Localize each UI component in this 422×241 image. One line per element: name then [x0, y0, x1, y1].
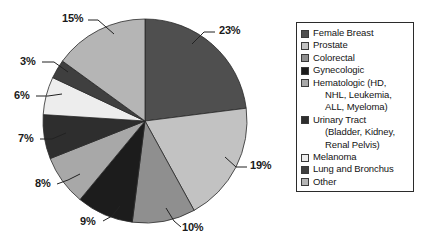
- legend-swatch-icon: [301, 166, 309, 174]
- pie-label-9: 9%: [80, 215, 96, 227]
- pie-label-10: 10%: [182, 221, 203, 233]
- legend-swatch-icon: [301, 154, 309, 162]
- legend-item-label: Other: [313, 176, 336, 188]
- legend-item[interactable]: Gynecologic: [301, 64, 410, 76]
- legend-item[interactable]: Other: [301, 176, 410, 188]
- legend-swatch-icon: [301, 54, 309, 62]
- legend-swatch-icon: [301, 178, 309, 186]
- pie-label-19: 19%: [250, 159, 271, 171]
- legend-swatch-icon: [301, 79, 309, 87]
- pie-label-8: 8%: [35, 177, 51, 189]
- pie-plot-area: 15% 23% 19% 10% 9% 8% 7% 6% 3%: [0, 0, 290, 241]
- pie-slices-group: [43, 19, 247, 223]
- legend-item[interactable]: Hematologic (HD,NHL, Leukemia,ALL, Myelo…: [301, 77, 410, 114]
- legend-item-label: Colorectal: [313, 52, 355, 64]
- legend-item-label: Female Breast: [313, 27, 373, 39]
- legend-item-label: Lung and Bronchus: [313, 163, 394, 175]
- legend-item-label-continued: Renal Pelvis): [313, 139, 395, 151]
- legend-item-label-continued: NHL, Leukemia,: [313, 89, 392, 101]
- chart-legend: Female BreastProstateColorectalGynecolog…: [296, 22, 414, 192]
- pie-label-3: 3%: [20, 55, 36, 67]
- legend-item[interactable]: Lung and Bronchus: [301, 163, 410, 175]
- legend-item-label: Hematologic (HD,NHL, Leukemia,ALL, Myelo…: [313, 77, 392, 114]
- pie-label-6: 6%: [14, 89, 30, 101]
- pie-label-23: 23%: [219, 24, 240, 36]
- legend-swatch-icon: [301, 116, 309, 124]
- legend-item[interactable]: Prostate: [301, 39, 410, 51]
- legend-swatch-icon: [301, 42, 309, 50]
- legend-swatch-icon: [301, 30, 309, 38]
- legend-item-label: Melanoma: [313, 151, 357, 163]
- pie-svg: [0, 0, 290, 241]
- legend-swatch-icon: [301, 67, 309, 75]
- pie-label-7: 7%: [18, 132, 34, 144]
- legend-item[interactable]: Female Breast: [301, 27, 410, 39]
- legend-item-label: Prostate: [313, 39, 348, 51]
- legend-item[interactable]: Colorectal: [301, 52, 410, 64]
- pie-label-15: 15%: [62, 12, 83, 24]
- legend-item[interactable]: Urinary Tract(Bladder, Kidney,Renal Pelv…: [301, 114, 410, 151]
- legend-item-label-continued: ALL, Myeloma): [313, 101, 392, 113]
- legend-item-label: Gynecologic: [313, 64, 364, 76]
- pie-chart-figure: 15% 23% 19% 10% 9% 8% 7% 6% 3% Female Br…: [0, 0, 422, 241]
- legend-item[interactable]: Melanoma: [301, 151, 410, 163]
- legend-item-label-continued: (Bladder, Kidney,: [313, 126, 395, 138]
- legend-item-label: Urinary Tract(Bladder, Kidney,Renal Pelv…: [313, 114, 395, 151]
